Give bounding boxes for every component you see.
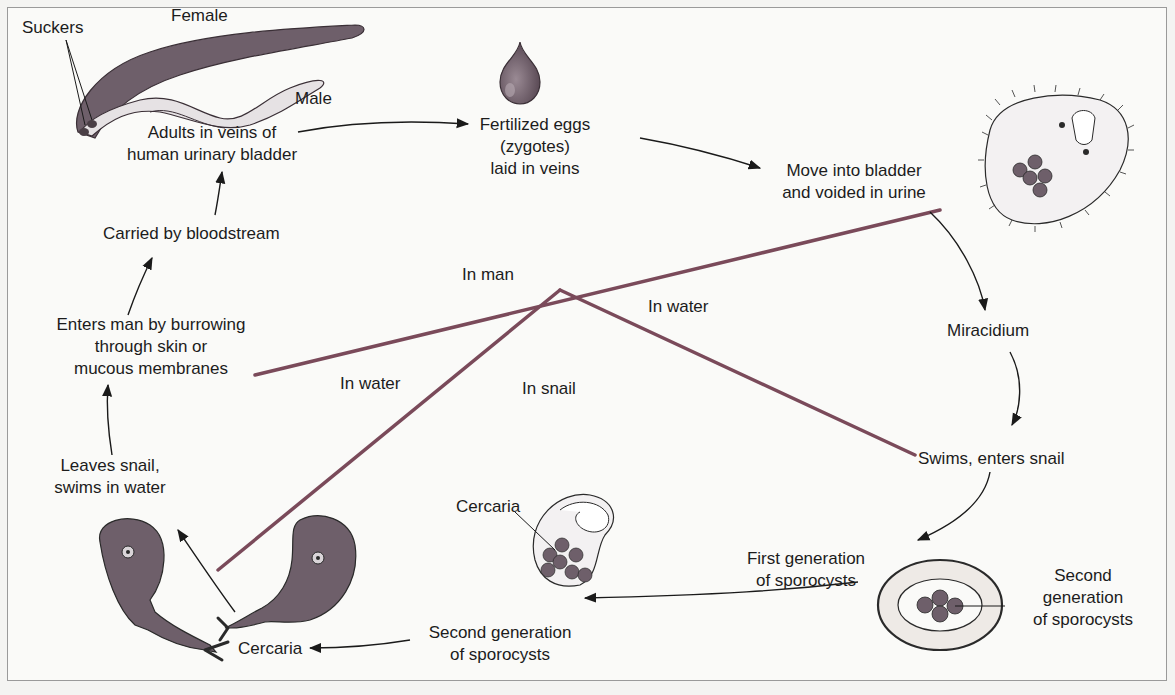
label-suckers: Suckers xyxy=(22,17,83,39)
label-female: Female xyxy=(171,5,228,27)
cercaria-right-illustration xyxy=(218,516,356,640)
label-cercaria-bottom: Cercaria xyxy=(238,638,302,660)
arrow-leaves-to-enters xyxy=(107,385,112,455)
sucker-2 xyxy=(79,128,89,136)
label-miracidium: Miracidium xyxy=(947,320,1029,342)
cercaria-left-illustration xyxy=(100,519,228,660)
sporocyst-center-illustration xyxy=(515,494,613,586)
label-second-gen-bottom: Second generation of sporocysts xyxy=(415,622,585,666)
region-in-snail: In snail xyxy=(522,378,576,400)
sucker-1 xyxy=(87,120,97,128)
arrow-bladder-to-miracidium xyxy=(930,212,985,310)
divider-man-water xyxy=(255,210,940,375)
divider-water-snail-left xyxy=(218,290,560,570)
egg-illustration xyxy=(500,42,540,104)
label-male: Male xyxy=(295,88,332,110)
label-eggs: Fertilized eggs (zygotes) laid in veins xyxy=(470,114,600,180)
label-adults: Adults in veins of human urinary bladder xyxy=(122,122,302,166)
arrow-adults-to-eggs xyxy=(298,122,468,132)
label-cercaria-inner: Cercaria xyxy=(456,496,520,518)
label-first-gen: First generation of sporocysts xyxy=(736,548,876,592)
label-carried: Carried by bloodstream xyxy=(103,223,280,245)
arrow-swims-to-firstgen xyxy=(918,472,990,540)
region-in-water-right: In water xyxy=(648,296,708,318)
label-enters-man: Enters man by burrowing through skin or … xyxy=(40,314,262,380)
arrow-cercaria-to-leaves xyxy=(178,530,235,612)
miracidium-illustration xyxy=(978,85,1134,232)
arrow-miracidium-to-swims xyxy=(1010,352,1020,425)
label-second-gen-right: Second generation of sporocysts xyxy=(1008,565,1158,631)
region-in-water-left: In water xyxy=(340,373,400,395)
divider-water-snail-right xyxy=(560,290,915,455)
arrow-eggs-to-bladder xyxy=(640,138,760,168)
sporocyst-right-illustration xyxy=(878,560,1005,650)
arrow-enters-to-carried xyxy=(128,258,152,315)
label-swims-enters: Swims, enters snail xyxy=(918,448,1064,470)
label-bladder: Move into bladder and voided in urine xyxy=(764,160,944,204)
label-leaves-snail: Leaves snail, swims in water xyxy=(40,455,180,499)
region-in-man: In man xyxy=(462,264,514,286)
arrow-carried-to-adults xyxy=(215,172,222,215)
arrow-secondgen-to-cercaria xyxy=(310,640,410,648)
